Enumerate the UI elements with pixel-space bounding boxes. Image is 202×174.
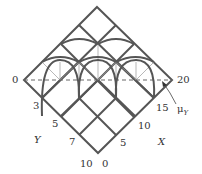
x-tick-5: 5: [120, 138, 126, 148]
x-axis-label: X: [158, 137, 165, 147]
y-tick-10: 10: [80, 159, 93, 169]
x-tick-15: 15: [156, 103, 169, 113]
y-axis-label: Y: [34, 135, 41, 145]
mu-subscript: Y: [184, 109, 189, 117]
mu-pointer: [164, 84, 176, 104]
surface-diagram: [0, 0, 202, 174]
y-tick-5: 5: [52, 119, 58, 129]
right-end-label: 20: [177, 75, 190, 85]
y-tick-3: 3: [33, 101, 39, 111]
mu-y-label: μY: [177, 104, 188, 117]
x-tick-0: 0: [102, 159, 108, 169]
x-tick-10: 10: [138, 121, 151, 131]
y-tick-7: 7: [69, 137, 75, 147]
left-end-label: 0: [12, 75, 18, 85]
thin-grid: [42, 44, 154, 80]
